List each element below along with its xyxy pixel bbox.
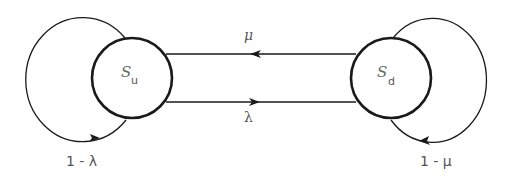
self-loop-sd-label: 1 - μ: [420, 153, 452, 169]
transition-sd-to-su: [166, 50, 356, 58]
state-sd-symbol: S: [377, 63, 387, 81]
state-sd: S d: [351, 38, 431, 118]
self-loop-sd-arrow-icon: [419, 136, 430, 145]
transition-lambda-label: λ: [244, 109, 253, 125]
state-su: S u: [92, 38, 172, 118]
state-transition-diagram: S u S d μ λ 1 - λ 1 - μ: [0, 0, 514, 176]
state-sd-subscript: d: [388, 75, 395, 88]
state-su-subscript: u: [131, 74, 138, 87]
transition-mu-label: μ: [244, 27, 253, 43]
transition-su-to-sd: [166, 98, 356, 106]
state-su-symbol: S: [121, 63, 131, 81]
self-loop-su-label: 1 - λ: [66, 153, 97, 169]
